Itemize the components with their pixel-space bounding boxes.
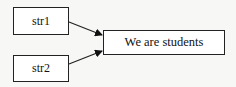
arrow-str2-to-target — [69, 51, 102, 64]
node-str1-label: str1 — [32, 14, 50, 29]
node-target: We are students — [103, 30, 225, 55]
node-str2-label: str2 — [32, 61, 50, 76]
arrow-str1-to-target — [69, 22, 102, 35]
node-str1: str1 — [13, 7, 69, 35]
node-str2: str2 — [13, 55, 69, 82]
node-target-label: We are students — [125, 35, 204, 50]
